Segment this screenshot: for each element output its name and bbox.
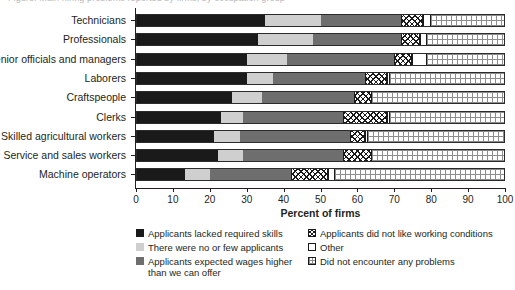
legend-item[interactable]: There were no or few applicants [136, 242, 308, 253]
legend-label: There were no or few applicants [148, 242, 308, 253]
bar-segment[interactable] [431, 15, 504, 26]
bar-segment[interactable] [137, 150, 218, 161]
bar-segment[interactable] [423, 15, 430, 26]
x-axis-tick-label: 50 [308, 194, 334, 205]
legend-item[interactable]: Applicants lacked required skills [136, 228, 308, 239]
bar-segment[interactable] [335, 169, 504, 180]
bar-segment[interactable] [243, 112, 342, 123]
plot-area: 0102030405060708090100 Percent of firms [136, 8, 505, 188]
y-axis-label: Skilled agricultural workers [1, 127, 126, 145]
bar-segment[interactable] [243, 150, 342, 161]
legend-swatch-icon [308, 243, 316, 251]
x-axis-tick-label: 0 [123, 194, 149, 205]
legend-swatch-icon [308, 229, 316, 237]
x-axis-tick [505, 188, 506, 192]
bar-segment[interactable] [137, 131, 214, 142]
y-axis-label: Senior officials and managers [0, 50, 126, 68]
bar-segment[interactable] [240, 131, 350, 142]
bar-segment[interactable] [262, 92, 354, 103]
x-axis-tick-label: 100 [492, 194, 515, 205]
x-axis-tick [173, 188, 174, 192]
bar-segment[interactable] [390, 112, 504, 123]
bar-row[interactable] [136, 72, 505, 85]
bar-segment[interactable] [321, 15, 402, 26]
x-axis-tick [431, 188, 432, 192]
y-axis-tick [131, 39, 135, 40]
y-axis-tick [131, 59, 135, 60]
legend-swatch-icon [136, 229, 144, 237]
bar-segment[interactable] [137, 34, 258, 45]
bar-segment[interactable] [137, 112, 221, 123]
bar-row[interactable] [136, 111, 505, 124]
bar-segment[interactable] [343, 150, 372, 161]
bar-segment[interactable] [137, 54, 247, 65]
bar-segment[interactable] [291, 169, 328, 180]
y-axis-label: Technicians [71, 11, 126, 29]
y-axis-label: Service and sales workers [3, 146, 126, 164]
bar-segment[interactable] [427, 54, 504, 65]
bar-segment[interactable] [221, 112, 243, 123]
bar-segment[interactable] [365, 73, 387, 84]
x-axis-tick-label: 20 [197, 194, 223, 205]
legend-swatch-icon [308, 257, 316, 265]
y-axis-label: Craftspeople [66, 88, 126, 106]
legend-item[interactable]: Other [308, 242, 515, 253]
bar-segment[interactable] [247, 54, 287, 65]
bar-segment[interactable] [273, 73, 365, 84]
bar-segment[interactable] [247, 73, 273, 84]
legend-item[interactable]: Applicants did not like working conditio… [308, 228, 515, 239]
bar-segment[interactable] [137, 73, 247, 84]
bar-segment[interactable] [218, 150, 244, 161]
bar-segment[interactable] [372, 150, 504, 161]
x-axis-tick-label: 40 [271, 194, 297, 205]
x-axis-tick [136, 188, 137, 192]
top-clipped-caption: Figure: Main hiring problems reported by… [0, 0, 515, 7]
bar-segment[interactable] [287, 54, 393, 65]
x-axis-tick-label: 90 [455, 194, 481, 205]
bar-segment[interactable] [214, 131, 240, 142]
x-axis-tick [394, 188, 395, 192]
y-axis-tick [131, 78, 135, 79]
bar-segment[interactable] [265, 15, 320, 26]
bar-segment[interactable] [137, 92, 232, 103]
bar-segment[interactable] [137, 15, 265, 26]
bar-row[interactable] [136, 149, 505, 162]
y-axis-label: Clerks [96, 108, 126, 126]
bar-segment[interactable] [350, 131, 365, 142]
bar-segment[interactable] [137, 169, 185, 180]
y-axis-category-labels: TechniciansProfessionalsSenior officials… [0, 8, 130, 188]
x-axis-tick [210, 188, 211, 192]
bar-segment[interactable] [258, 34, 313, 45]
bar-segment[interactable] [401, 34, 419, 45]
bar-segment[interactable] [394, 54, 412, 65]
y-axis-tick [131, 155, 135, 156]
bar-segment[interactable] [401, 15, 423, 26]
legend-label: Applicants expected wages higher than we… [148, 256, 308, 278]
bar-segment[interactable] [412, 54, 427, 65]
legend-column-right: Applicants did not like working conditio… [308, 228, 515, 270]
bar-segment[interactable] [427, 34, 504, 45]
bar-segment[interactable] [343, 112, 387, 123]
bar-row[interactable] [136, 53, 505, 66]
bar-segment[interactable] [210, 169, 291, 180]
bar-segment[interactable] [328, 169, 335, 180]
y-axis-tick [131, 20, 135, 21]
bar-row[interactable] [136, 130, 505, 143]
bar-segment[interactable] [313, 34, 401, 45]
bar-segment[interactable] [390, 73, 504, 84]
bar-segment[interactable] [420, 34, 427, 45]
legend-item[interactable]: Did not encounter any problems [308, 256, 515, 267]
x-axis-tick [321, 188, 322, 192]
legend-column-left: Applicants lacked required skillsThere w… [136, 228, 308, 281]
bar-segment[interactable] [232, 92, 261, 103]
bar-row[interactable] [136, 33, 505, 46]
bar-row[interactable] [136, 168, 505, 181]
bar-segment[interactable] [372, 92, 504, 103]
bar-segment[interactable] [354, 92, 372, 103]
bar-segment[interactable] [185, 169, 211, 180]
bar-segment[interactable] [368, 131, 504, 142]
bar-row[interactable] [136, 91, 505, 104]
legend-item[interactable]: Applicants expected wages higher than we… [136, 256, 308, 278]
bar-row[interactable] [136, 14, 505, 27]
x-axis-tick [247, 188, 248, 192]
